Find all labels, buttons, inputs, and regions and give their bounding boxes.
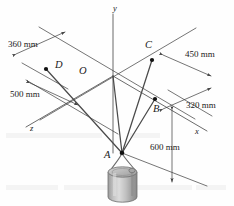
dimension-label-450mm: 450 mm <box>185 50 215 59</box>
node-b <box>153 97 157 101</box>
node-d <box>44 67 48 71</box>
dimension-label-500mm: 500 mm <box>10 90 40 99</box>
cable-ad <box>46 69 122 153</box>
point-label-o: O <box>79 66 87 77</box>
point-label-d: D <box>55 60 63 71</box>
axis-line-z <box>26 76 113 127</box>
dimension-label-600mm: 600 mm <box>150 143 180 152</box>
dimension-lines <box>16 32 211 182</box>
grid-line-2 <box>40 28 196 120</box>
node-c <box>150 58 154 62</box>
node-a <box>120 151 125 156</box>
dimension-label-320mm: 320 mm <box>186 101 216 110</box>
cylinder-weight <box>108 155 137 202</box>
axis-label-x: x <box>195 127 199 136</box>
grid-line-3 <box>26 80 118 134</box>
cylinder-lug <box>129 168 135 172</box>
cable-ao <box>113 76 122 153</box>
axis-label-z: z <box>30 124 33 133</box>
cylinder-shade <box>131 173 133 196</box>
axis-label-y: y <box>113 4 117 13</box>
statics-figure: y x z O A B C D 360 mm 450 mm 500 mm 320… <box>0 0 234 206</box>
point-label-a: A <box>104 150 110 161</box>
point-label-c: C <box>145 40 152 51</box>
point-label-b: B <box>153 104 159 115</box>
cylinder-highlight <box>113 173 116 196</box>
coordinate-axes <box>26 14 207 153</box>
dimension-label-360mm: 360 mm <box>8 40 38 49</box>
cable-ac <box>122 60 152 153</box>
